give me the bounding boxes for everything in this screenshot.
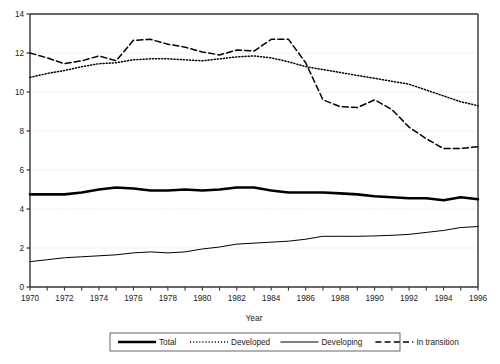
- y-tick-label-14: 14: [15, 10, 25, 19]
- legend-label-developed: Developed: [231, 338, 271, 347]
- x-axis-title: Year: [246, 313, 263, 323]
- chart-container: 02468101214 1970197219741976197819801982…: [0, 0, 500, 364]
- x-tick-label-1982: 1982: [228, 294, 247, 303]
- y-tick-label-4: 4: [19, 205, 24, 214]
- y-tick-label-6: 6: [19, 166, 24, 175]
- legend-label-total: Total: [159, 338, 176, 347]
- y-tick-label-12: 12: [15, 49, 25, 58]
- x-tick-label-1976: 1976: [124, 294, 143, 303]
- x-tick-label-1996: 1996: [469, 294, 488, 303]
- x-tick-label-1970: 1970: [21, 294, 40, 303]
- x-tick-label-1972: 1972: [55, 294, 74, 303]
- legend-label-in-transition: In transition: [416, 338, 459, 347]
- y-tick-label-0: 0: [19, 283, 24, 292]
- y-tick-label-2: 2: [19, 244, 24, 253]
- x-tick-label-1988: 1988: [331, 294, 350, 303]
- chart-background: [0, 0, 500, 364]
- x-tick-label-1980: 1980: [193, 294, 212, 303]
- x-tick-label-1974: 1974: [90, 294, 109, 303]
- x-tick-label-1992: 1992: [400, 294, 419, 303]
- x-tick-label-1990: 1990: [366, 294, 385, 303]
- x-tick-label-1994: 1994: [434, 294, 453, 303]
- x-tick-label-1986: 1986: [297, 294, 316, 303]
- x-tick-label-1984: 1984: [262, 294, 281, 303]
- y-tick-label-8: 8: [19, 127, 24, 136]
- legend-label-developing: Developing: [321, 338, 362, 347]
- x-tick-label-1978: 1978: [159, 294, 178, 303]
- y-tick-label-10: 10: [15, 88, 25, 97]
- line-chart: 02468101214 1970197219741976197819801982…: [0, 0, 500, 364]
